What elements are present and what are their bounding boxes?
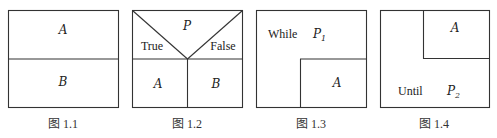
block-a-label: A — [450, 21, 460, 35]
figure-1-1-sequence: A B 图 1.1 — [9, 11, 119, 132]
condition-p1-subscript: 1 — [321, 34, 326, 43]
while-keyword: While — [268, 27, 297, 41]
block-a-label: A — [153, 77, 163, 91]
figure-caption: 图 1.3 — [296, 117, 326, 131]
figure-caption: 图 1.1 — [48, 117, 78, 131]
false-label: False — [210, 39, 235, 53]
figure-caption: 图 1.2 — [172, 117, 202, 131]
until-keyword: Until — [398, 84, 423, 98]
block-a-label: A — [332, 76, 342, 90]
figure-1-4-until-loop: A Until P 2 图 1.4 — [381, 11, 490, 132]
figure-caption: 图 1.4 — [419, 117, 449, 131]
true-label: True — [141, 39, 163, 53]
block-b-label: B — [211, 77, 221, 91]
figure-1-2-if-else: P True False A B 图 1.2 — [133, 11, 243, 132]
figure-1-3-while-loop: While P 1 A 图 1.3 — [257, 11, 367, 132]
nassi-shneiderman-diagrams: A B 图 1.1 P True False A B 图 1.2 While P… — [0, 0, 497, 138]
condition-p2-subscript: 2 — [454, 91, 460, 100]
block-a-label: A — [58, 23, 68, 37]
condition-p-label: P — [182, 19, 192, 33]
block-b-label: B — [58, 75, 68, 89]
